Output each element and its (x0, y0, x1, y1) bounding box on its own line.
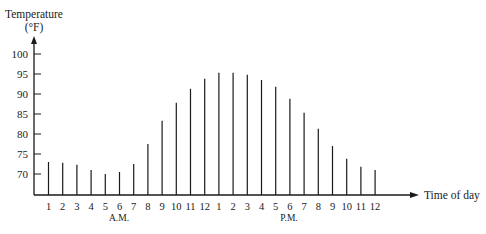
x-tick-label: 6 (287, 201, 292, 212)
x-tick-label: 5 (103, 201, 108, 212)
x-tick-label: 4 (259, 201, 265, 212)
x-tick-label: 8 (145, 201, 150, 212)
x-tick-label: 2 (60, 201, 65, 212)
x-tick-label: 10 (341, 201, 352, 212)
y-tick-label: 85 (17, 108, 29, 120)
y-axis-label: Temperature (5, 8, 63, 21)
y-tick-label: 80 (17, 128, 29, 140)
x-tick-label: 6 (117, 201, 122, 212)
x-tick-label: 12 (370, 201, 381, 212)
x-tick-label: 1 (216, 201, 221, 212)
y-axis-arrow-icon (31, 36, 37, 44)
x-tick-label: 5 (273, 201, 278, 212)
y-ticks: 707580859095100 (12, 48, 42, 180)
x-tick-label: 9 (159, 201, 164, 212)
x-tick-label: 2 (230, 201, 235, 212)
x-tick-label: 3 (245, 201, 250, 212)
y-tick-label: 90 (17, 88, 29, 100)
temperature-chart: Temperature (°F) 707580859095100 1234567… (0, 0, 486, 234)
x-tick-label: 11 (185, 201, 195, 212)
x-tick-label: 4 (88, 201, 94, 212)
x-tick-label: 11 (356, 201, 366, 212)
bars (49, 73, 376, 195)
x-axis-label: Time of day (424, 189, 480, 202)
x-tick-label: 7 (301, 201, 306, 212)
y-tick-label: 100 (12, 48, 29, 60)
x-tick-label: 10 (171, 201, 182, 212)
x-tick-label: 3 (74, 201, 79, 212)
x-tick-label: 1 (46, 201, 51, 212)
x-tick-labels: 123456789101112123456789101112 (46, 201, 380, 212)
y-axis-unit: (°F) (25, 21, 44, 34)
y-axis-title: Temperature (°F) (5, 8, 63, 34)
x-axis-arrow-icon (410, 192, 419, 198)
pm-label: P.M. (280, 213, 297, 223)
x-tick-label: 9 (330, 201, 335, 212)
y-tick-label: 70 (17, 168, 29, 180)
y-tick-label: 75 (17, 148, 29, 160)
y-tick-label: 95 (17, 68, 29, 80)
am-label: A.M. (109, 213, 129, 223)
x-tick-label: 12 (199, 201, 210, 212)
x-tick-label: 8 (316, 201, 321, 212)
x-tick-label: 7 (131, 201, 136, 212)
